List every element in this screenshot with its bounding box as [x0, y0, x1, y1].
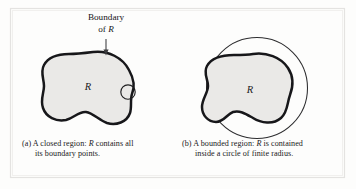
boundary-annotation-symbol: R	[108, 24, 114, 34]
boundary-annotation-line1: Boundary	[88, 12, 124, 22]
boundary-annotation-line2-prefix: of	[98, 24, 108, 34]
caption-b-line1-pre: (b) A bounded region:	[182, 139, 256, 148]
region-label-b: R	[246, 84, 254, 95]
region-label-a: R	[84, 81, 92, 92]
caption-a: (a) A closed region: R contains all its …	[22, 139, 174, 160]
caption-b-line1-post: is contained	[261, 139, 303, 148]
figure-canvas: R R	[0, 0, 356, 189]
caption-b: (b) A bounded region: R is contained ins…	[182, 139, 344, 160]
caption-b-line2: inside a circle of finite radius.	[182, 149, 344, 159]
caption-a-line2: its boundary points.	[22, 149, 174, 159]
caption-a-line1-post: contains all	[94, 139, 134, 148]
caption-a-line1-pre: (a) A closed region:	[22, 139, 89, 148]
figure-container: R R Boundary of R (a) A closed region: R…	[0, 0, 356, 189]
boundary-annotation: Boundary of R	[62, 12, 150, 35]
